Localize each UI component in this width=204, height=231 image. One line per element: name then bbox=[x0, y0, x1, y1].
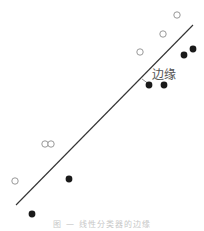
open-point bbox=[48, 141, 54, 147]
open-point bbox=[174, 12, 180, 18]
open-point bbox=[12, 178, 18, 184]
filled-point bbox=[190, 46, 197, 53]
margin-label: 边缘 bbox=[152, 65, 176, 82]
open-point bbox=[42, 141, 48, 147]
filled-point bbox=[66, 176, 73, 183]
open-point bbox=[137, 49, 143, 55]
filled-point bbox=[29, 211, 36, 218]
filled-point bbox=[161, 82, 168, 89]
filled-point bbox=[181, 52, 188, 59]
figure-caption: 图 — 线性分类器的边缘 bbox=[0, 218, 204, 229]
classifier-diagram bbox=[0, 0, 204, 231]
filled-point bbox=[146, 82, 153, 89]
decision-boundary-line bbox=[16, 25, 193, 205]
open-point bbox=[160, 31, 166, 37]
